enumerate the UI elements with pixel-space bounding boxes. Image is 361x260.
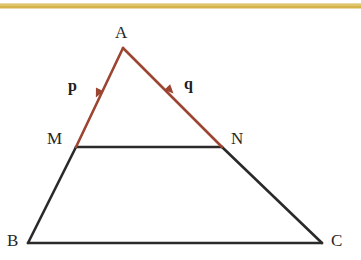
vertex-label-n: N bbox=[231, 130, 243, 147]
vector-q-line bbox=[123, 48, 222, 147]
segment-nc bbox=[222, 147, 322, 243]
vertex-label-b: B bbox=[7, 232, 18, 249]
vector-label-q: q bbox=[184, 76, 193, 92]
vertex-label-m: M bbox=[47, 130, 62, 147]
vector-p-line bbox=[76, 48, 123, 147]
vector-label-p: p bbox=[68, 78, 77, 94]
segment-mb bbox=[28, 147, 76, 243]
geometry-figure: A M N B C p q bbox=[0, 0, 361, 260]
vertex-label-c: C bbox=[331, 232, 342, 249]
vertex-label-a: A bbox=[115, 24, 127, 41]
